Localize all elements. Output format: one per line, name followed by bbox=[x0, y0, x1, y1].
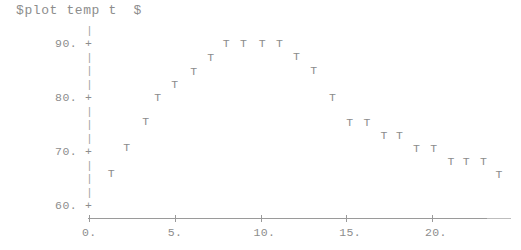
y-axis-stem-glyph: | bbox=[86, 132, 93, 145]
data-point-marker: T bbox=[259, 38, 266, 50]
x-axis-tick-label: 0. bbox=[82, 226, 97, 239]
data-point-marker: T bbox=[108, 168, 115, 180]
x-axis-tick-label: 5. bbox=[168, 226, 183, 239]
y-axis-stem-glyph: | bbox=[86, 24, 93, 37]
y-axis-tick-label: 60. bbox=[37, 199, 77, 212]
data-point-marker: T bbox=[171, 79, 178, 91]
y-axis-tick-mark: + bbox=[85, 199, 92, 212]
data-point-marker: T bbox=[293, 51, 300, 63]
x-axis-tick-label: 15. bbox=[339, 226, 361, 239]
data-point-marker: T bbox=[346, 117, 353, 129]
page-title: $plot temp t $ bbox=[16, 3, 142, 18]
y-axis-tick-mark: + bbox=[85, 91, 92, 104]
data-point-marker: T bbox=[430, 143, 437, 155]
x-axis-tick-label: 10. bbox=[254, 226, 276, 239]
y-axis-tick-label: 70. bbox=[37, 145, 77, 158]
data-point-marker: T bbox=[381, 130, 388, 142]
y-axis-stem-glyph: | bbox=[86, 118, 93, 131]
data-point-marker: T bbox=[363, 117, 370, 129]
y-axis-stem-glyph: | bbox=[86, 105, 93, 118]
y-axis-tick-mark: + bbox=[85, 37, 92, 50]
data-point-marker: T bbox=[413, 143, 420, 155]
data-point-marker: T bbox=[207, 52, 214, 64]
y-axis-tick-mark: + bbox=[85, 145, 92, 158]
data-point-marker: T bbox=[142, 117, 149, 129]
data-point-marker: T bbox=[190, 66, 197, 78]
data-point-marker: T bbox=[240, 38, 247, 50]
y-axis-stem-glyph: | bbox=[86, 64, 93, 77]
y-axis-tick-label: 80. bbox=[37, 91, 77, 104]
data-point-marker: T bbox=[123, 143, 130, 155]
data-point-marker: T bbox=[396, 130, 403, 142]
y-axis-stem-glyph: | bbox=[86, 51, 93, 64]
data-point-marker: T bbox=[480, 157, 487, 169]
y-axis-tick-label: 90. bbox=[37, 37, 77, 50]
x-axis-line-tail bbox=[487, 218, 511, 219]
data-point-marker: T bbox=[463, 157, 470, 169]
data-point-marker: T bbox=[329, 92, 336, 104]
y-axis-stem-glyph: | bbox=[86, 159, 93, 172]
y-axis-stem-glyph: | bbox=[86, 186, 93, 199]
data-point-marker: T bbox=[154, 92, 161, 104]
data-point-marker: T bbox=[223, 38, 230, 50]
x-axis-line bbox=[88, 218, 487, 219]
data-point-marker: T bbox=[447, 157, 454, 169]
y-axis-stem-glyph: | bbox=[86, 78, 93, 91]
plot-canvas: $plot temp t $ 90.+80.+70.+60.+|||||||||… bbox=[0, 0, 521, 250]
y-axis-stem-glyph: | bbox=[86, 172, 93, 185]
data-point-marker: T bbox=[276, 38, 283, 50]
x-axis-tick-label: 20. bbox=[425, 226, 447, 239]
data-point-marker: T bbox=[495, 170, 502, 182]
data-point-marker: T bbox=[310, 65, 317, 77]
